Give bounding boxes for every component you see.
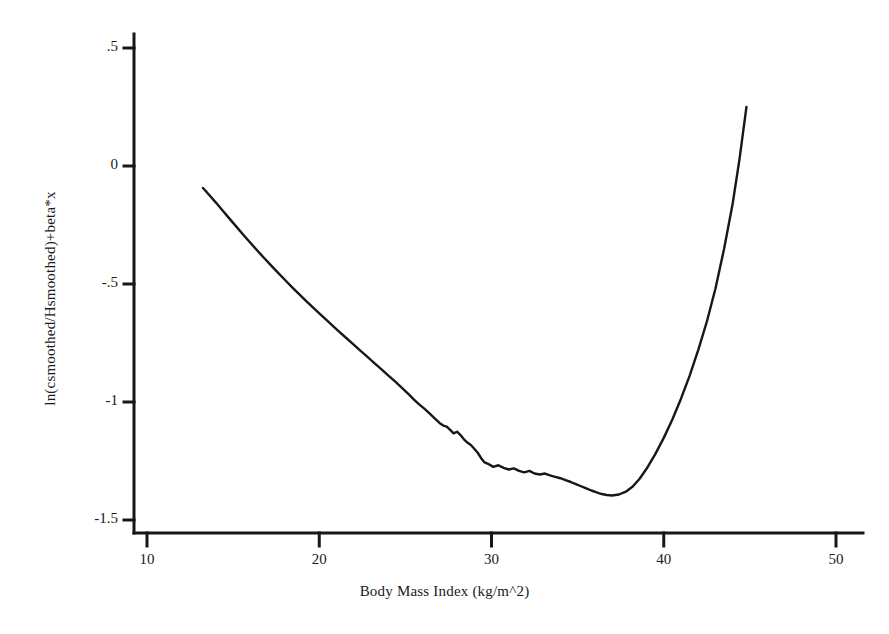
y-tick-label: 0	[58, 156, 118, 173]
x-axis-title: Body Mass Index (kg/m^2)	[0, 583, 889, 600]
x-tick-label: 10	[117, 551, 177, 568]
chart-figure: .50-.5-1-1.5 1020304050 Body Mass Index …	[0, 0, 889, 634]
chart-canvas	[0, 0, 889, 634]
x-tick-label: 40	[634, 551, 694, 568]
x-tick-label: 30	[462, 551, 522, 568]
y-tick-label: -1	[58, 392, 118, 409]
x-axis-tick-marks	[147, 533, 836, 546]
y-tick-label: -1.5	[58, 510, 118, 527]
y-tick-label: .5	[58, 38, 118, 55]
x-tick-label: 20	[289, 551, 349, 568]
y-tick-label: -.5	[58, 274, 118, 291]
y-axis-title: ln(csmoothed/Hsmoothed)+beta*x	[42, 89, 59, 509]
axis-spines	[134, 34, 863, 533]
data-series-line	[203, 107, 746, 495]
x-tick-label: 50	[806, 551, 866, 568]
